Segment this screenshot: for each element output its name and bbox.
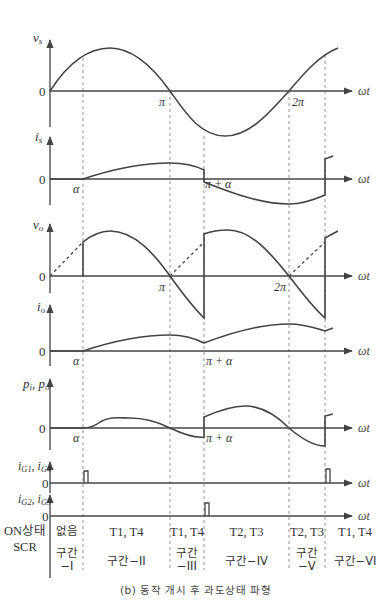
vs-tick-pi: π	[159, 96, 165, 108]
power-x-axis-label: ωt	[358, 422, 370, 434]
io-axis-label: io	[37, 300, 45, 315]
power-plot	[50, 379, 352, 450]
interval-2-name: 구간−II	[83, 555, 170, 568]
gate-g2-g3-zero-label: 0	[42, 510, 49, 523]
interval-6-name: 구간−VI	[325, 555, 385, 568]
interval-1-name: 구간 −I	[51, 547, 83, 573]
vo-axis-label: vo	[33, 218, 43, 233]
vs-tick-2pi: 2π	[292, 96, 304, 108]
gate-g2-g3-x-axis-label: ωt	[358, 510, 370, 522]
vo-plot	[50, 224, 352, 318]
interval-2-scr: T1, T4	[83, 525, 170, 539]
power-tick-alpha: α	[73, 432, 79, 444]
is-plot	[50, 137, 352, 205]
io-zero-label: 0	[39, 345, 46, 358]
interval-5-scr: T2, T3	[289, 525, 325, 539]
interval-4-scr: T2, T3	[204, 525, 289, 539]
io-tick-alpha: α	[73, 355, 79, 367]
vo-zero-label: 0	[39, 270, 46, 283]
vo-tick-2pi: 2π	[274, 281, 286, 293]
vs-x-axis-label: ωt	[358, 85, 370, 97]
waveform-figure: vs is vo io pi, po iG1, iG4 iG2, iG3 0 0…	[0, 0, 391, 603]
gate-g1-g4-zero-label: 0	[42, 477, 49, 490]
is-axis-label: is	[35, 130, 42, 145]
is-x-axis-label: ωt	[358, 173, 370, 185]
interval-3-scr: T1, T4	[170, 525, 204, 539]
interval-3-name: 구간 −III	[170, 547, 204, 573]
gate-g1-g4-x-axis-label: ωt	[358, 477, 370, 489]
vo-x-axis-label: ωt	[358, 270, 370, 282]
vs-zero-label: 0	[39, 85, 46, 98]
is-zero-label: 0	[39, 173, 46, 186]
vs-plot	[50, 40, 352, 136]
vo-tick-pi: π	[159, 281, 165, 293]
interval-6-scr: T1, T4	[325, 525, 385, 539]
interval-4-name: 구간−IV	[204, 555, 289, 568]
interval-5-name: 구간 −V	[289, 547, 325, 573]
io-x-axis-label: ωt	[358, 345, 370, 357]
figure-caption: (b) 동작 개시 후 과도상태 파형	[0, 582, 391, 597]
on-state-scr-header: ON상태 SCR	[2, 524, 48, 555]
is-tick-alpha: α	[73, 183, 79, 195]
io-tick-pi-plus-alpha: π + α	[206, 355, 232, 367]
power-axis-label: pi, po	[23, 377, 50, 392]
gate-g1-g4-axis-label: iG1, iG4	[18, 460, 51, 474]
vs-axis-label: vs	[33, 31, 42, 46]
power-zero-label: 0	[39, 422, 46, 435]
is-tick-pi-plus-alpha: π + α	[205, 178, 231, 190]
gate-g2-g3-axis-label: iG2, iG3	[18, 493, 51, 507]
gate-pulse-g1-g4-plot	[50, 462, 352, 493]
power-tick-pi-plus-alpha: π + α	[206, 432, 232, 444]
interval-1-scr: 없음	[51, 525, 83, 538]
